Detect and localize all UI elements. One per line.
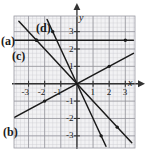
label-a: (a) [1,35,15,47]
x-axis-label: x [128,78,132,88]
y-tick-label: -1 [66,97,74,106]
x-tick-label: -2 [38,88,46,97]
y-tick-label: 2 [69,45,74,54]
label-d: (d) [36,22,51,34]
x-tick-label: 2 [107,88,112,97]
x-tick-label: 1 [91,88,96,97]
x-tick-label: -1 [54,88,62,97]
y-axis-label: y [79,13,83,23]
label-c: (c) [12,50,25,62]
y-tick-label: -2 [66,114,74,123]
x-tick-label: 3 [123,88,128,97]
x-tick-label: -3 [22,88,30,97]
graph-figure: (a) (b) (c) (d) x y -3-2-1123-3-2-1123 [0,0,145,158]
y-tick-label: -3 [66,131,74,140]
y-tick-label: 1 [69,62,74,71]
label-b: (b) [3,126,18,138]
y-tick-label: 3 [69,27,74,36]
